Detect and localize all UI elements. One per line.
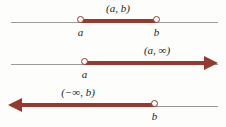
tick-label-a: a	[75, 68, 95, 80]
interval-label: (a, ∞)	[144, 44, 170, 56]
tick-label-a: a	[71, 26, 91, 38]
tick-label-b: b	[145, 110, 165, 122]
open-endpoint-left	[81, 58, 88, 65]
number-line-interval-neg-infinity-b: b (−∞, b)	[0, 84, 226, 126]
interval-notation-figure: a b (a, b) a (a, ∞) b (−∞, b)	[0, 0, 226, 127]
open-endpoint-right	[151, 100, 158, 107]
interval-label: (−∞, b)	[61, 86, 95, 98]
interval-label: (a, b)	[106, 2, 130, 14]
tick-label-b: b	[147, 26, 167, 38]
shaded-segment	[22, 103, 155, 107]
open-endpoint-left	[77, 16, 84, 23]
right-arrowhead-icon	[204, 56, 218, 70]
shaded-segment	[84, 61, 206, 65]
open-endpoint-right	[153, 16, 160, 23]
number-line-open-interval-a-b: a b (a, b)	[0, 0, 226, 42]
left-arrowhead-icon	[8, 98, 22, 112]
shaded-segment	[80, 19, 156, 23]
number-line-interval-a-infinity: a (a, ∞)	[0, 42, 226, 84]
